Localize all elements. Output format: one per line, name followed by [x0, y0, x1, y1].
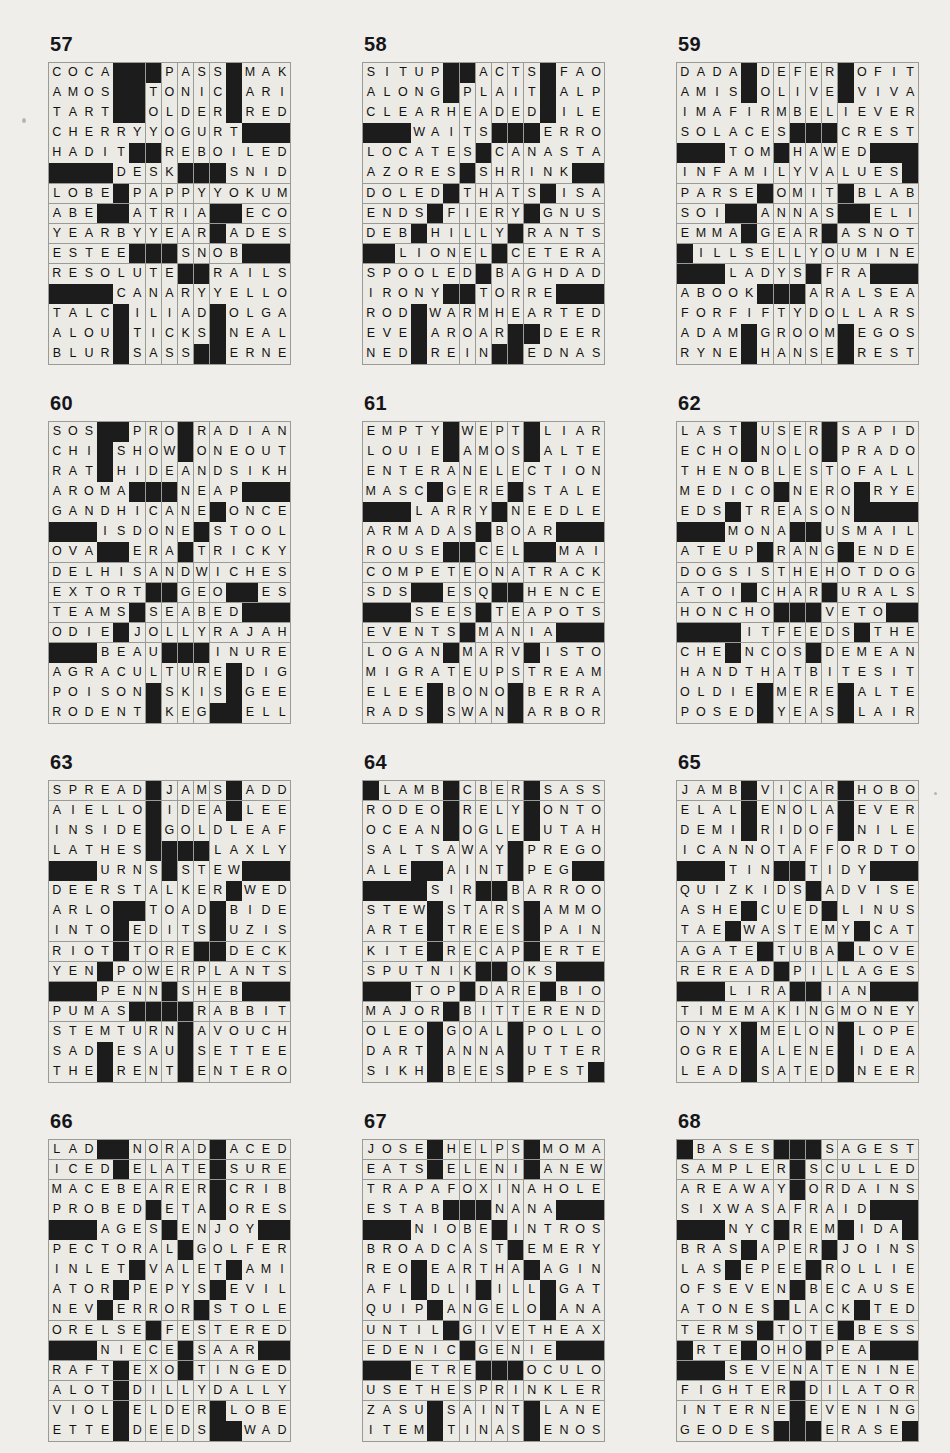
- grid-block: [460, 163, 476, 183]
- grid-block: [476, 522, 492, 542]
- grid-letter-cell: S: [540, 962, 556, 982]
- grid-letter-cell: R: [113, 583, 129, 603]
- grid-letter-cell: A: [677, 83, 693, 103]
- grid-letter-cell: A: [556, 1401, 572, 1421]
- grid-block: [508, 841, 524, 861]
- grid-letter-cell: A: [757, 1180, 773, 1200]
- grid-letter-cell: I: [556, 103, 572, 123]
- grid-letter-cell: I: [81, 442, 97, 462]
- grid-letter-cell: J: [129, 623, 145, 643]
- grid-letter-cell: I: [774, 781, 790, 801]
- grid-letter-cell: A: [411, 103, 427, 123]
- grid-letter-cell: I: [854, 901, 870, 921]
- grid-letter-cell: R: [757, 982, 773, 1002]
- grid-block: [870, 143, 886, 163]
- grid-letter-cell: O: [443, 1220, 459, 1240]
- grid-letter-cell: E: [274, 801, 290, 821]
- grid-letter-cell: D: [129, 1421, 145, 1441]
- grid-letter-cell: E: [886, 1002, 902, 1022]
- grid-letter-cell: V: [81, 1300, 97, 1320]
- grid-letter-cell: U: [379, 1300, 395, 1320]
- grid-letter-cell: I: [508, 83, 524, 103]
- grid-letter-cell: A: [709, 841, 725, 861]
- grid-letter-cell: F: [379, 1280, 395, 1300]
- grid-letter-cell: J: [242, 623, 258, 643]
- grid-letter-cell: A: [460, 442, 476, 462]
- grid-letter-cell: Y: [146, 123, 162, 143]
- grid-letter-cell: L: [395, 184, 411, 204]
- grid-letter-cell: T: [725, 942, 741, 962]
- grid-block: [524, 1140, 540, 1160]
- grid-letter-cell: M: [757, 143, 773, 163]
- grid-letter-cell: E: [274, 502, 290, 522]
- grid-letter-cell: L: [677, 1062, 693, 1082]
- grid-letter-cell: A: [443, 1260, 459, 1280]
- grid-letter-cell: E: [274, 344, 290, 364]
- grid-letter-cell: D: [709, 63, 725, 83]
- grid-letter-cell: T: [902, 224, 918, 244]
- grid-letter-cell: E: [395, 683, 411, 703]
- grid-block: [210, 304, 226, 324]
- grid-block: [741, 1341, 757, 1361]
- grid-letter-cell: A: [572, 821, 588, 841]
- grid-letter-cell: U: [363, 1381, 379, 1401]
- grid-letter-cell: T: [838, 663, 854, 683]
- grid-letter-cell: A: [242, 83, 258, 103]
- grid-letter-cell: O: [146, 623, 162, 643]
- grid-letter-cell: M: [476, 442, 492, 462]
- grid-letter-cell: S: [725, 1361, 741, 1381]
- grid-letter-cell: A: [113, 781, 129, 801]
- grid-letter-cell: O: [774, 184, 790, 204]
- grid-letter-cell: A: [854, 1180, 870, 1200]
- grid-letter-cell: A: [492, 623, 508, 643]
- grid-letter-cell: S: [49, 781, 65, 801]
- grid-letter-cell: F: [443, 204, 459, 224]
- grid-letter-cell: S: [194, 324, 210, 344]
- grid-letter-cell: N: [870, 1002, 886, 1022]
- grid-letter-cell: A: [443, 841, 459, 861]
- grid-letter-cell: R: [65, 482, 81, 502]
- grid-letter-cell: U: [258, 184, 274, 204]
- grid-block: [886, 1200, 902, 1220]
- grid-letter-cell: L: [178, 623, 194, 643]
- grid-letter-cell: T: [572, 143, 588, 163]
- grid-letter-cell: R: [363, 801, 379, 821]
- grid-letter-cell: M: [854, 522, 870, 542]
- grid-block: [162, 1002, 178, 1022]
- grid-block: [790, 1160, 806, 1180]
- grid-letter-cell: T: [194, 542, 210, 562]
- grid-letter-cell: O: [97, 921, 113, 941]
- grid-letter-cell: Y: [274, 1381, 290, 1401]
- grid-letter-cell: S: [81, 264, 97, 284]
- grid-letter-cell: S: [379, 1381, 395, 1401]
- grid-letter-cell: A: [178, 304, 194, 324]
- grid-letter-cell: K: [741, 284, 757, 304]
- grid-letter-cell: S: [588, 224, 604, 244]
- grid-letter-cell: S: [886, 881, 902, 901]
- grid-letter-cell: A: [588, 244, 604, 264]
- grid-letter-cell: S: [146, 603, 162, 623]
- grid-letter-cell: O: [97, 901, 113, 921]
- grid-letter-cell: O: [379, 304, 395, 324]
- grid-letter-cell: C: [443, 1240, 459, 1260]
- grid-letter-cell: O: [588, 1022, 604, 1042]
- grid-block: [806, 643, 822, 663]
- grid-letter-cell: N: [476, 344, 492, 364]
- grid-letter-cell: U: [854, 163, 870, 183]
- grid-letter-cell: A: [427, 1180, 443, 1200]
- grid-block: [178, 841, 194, 861]
- grid-letter-cell: M: [97, 1022, 113, 1042]
- grid-letter-cell: S: [886, 1280, 902, 1300]
- grid-letter-cell: R: [572, 244, 588, 264]
- grid-block: [741, 63, 757, 83]
- grid-letter-cell: E: [902, 1260, 918, 1280]
- grid-letter-cell: E: [492, 482, 508, 502]
- grid-letter-cell: G: [902, 563, 918, 583]
- grid-letter-cell: E: [411, 184, 427, 204]
- grid-letter-cell: E: [427, 563, 443, 583]
- grid-letter-cell: A: [677, 1300, 693, 1320]
- grid-block: [677, 244, 693, 264]
- grid-block: [411, 861, 427, 881]
- grid-letter-cell: L: [258, 264, 274, 284]
- grid-letter-cell: S: [476, 123, 492, 143]
